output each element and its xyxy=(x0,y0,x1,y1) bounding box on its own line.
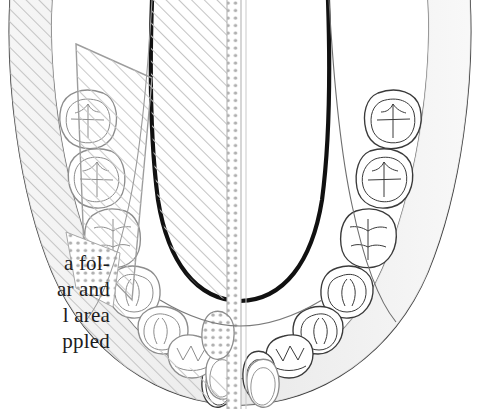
caption-line-1: a fol- xyxy=(0,250,110,276)
caption-line-4: ppled xyxy=(0,328,110,354)
left-central-incisor-stipple xyxy=(202,311,234,359)
mandible-figure: a fol- ar and l area ppled xyxy=(0,0,481,409)
tooth-right-first-molar xyxy=(341,209,397,268)
caption-line-2: ar and xyxy=(0,276,110,302)
tooth-right-third-molar xyxy=(365,90,422,149)
tooth-right-second-molar xyxy=(356,149,413,208)
tooth-left-central-incisor xyxy=(247,359,279,407)
figure-caption: a fol- ar and l area ppled xyxy=(0,250,110,354)
caption-line-3: l area xyxy=(0,302,110,328)
